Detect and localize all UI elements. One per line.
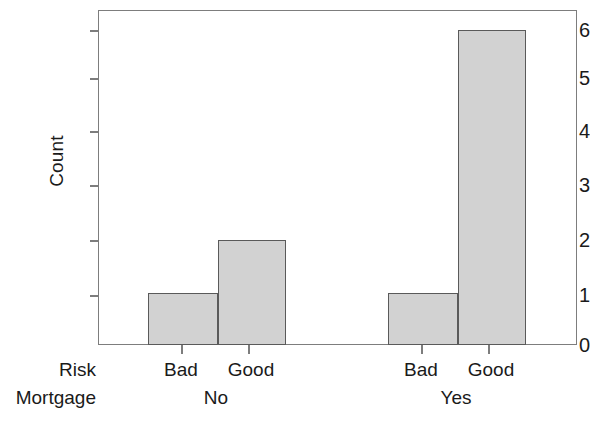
x-group-label-yes: Yes [441,388,472,408]
x-tick-mark-yes-bad [421,345,423,354]
y-tick-label-0: 0 [564,335,590,355]
y-tick-label-2: 2 [564,230,590,250]
x-group-label-no: No [204,388,228,408]
y-tick-mark-4 [90,131,98,133]
x-tick-mark-yes-good [488,345,490,354]
y-tick-mark-1 [90,295,98,297]
x-axis-level-title-mortgage: Mortgage [0,388,96,408]
bar-chart: Count 6 5 4 3 2 1 0 Risk Mortgage Bad Go… [0,0,590,422]
y-tick-label-4: 4 [564,121,590,141]
bar-yes-good[interactable] [458,30,526,345]
y-tick-label-1: 1 [564,285,590,305]
y-tick-label-6: 6 [564,20,590,40]
x-axis-level-title-risk: Risk [0,360,96,380]
bar-yes-bad[interactable] [388,293,458,346]
x-cat-label-yes-good: Good [468,360,514,380]
y-tick-label-3: 3 [564,175,590,195]
x-tick-mark-no-good [248,345,250,354]
x-cat-label-no-bad: Bad [164,360,198,380]
x-cat-label-no-good: Good [228,360,274,380]
y-tick-label-5: 5 [564,68,590,88]
y-tick-mark-2 [90,240,98,242]
y-tick-mark-5 [90,78,98,80]
bar-no-bad[interactable] [148,293,218,346]
y-tick-mark-6 [90,30,98,32]
y-tick-mark-3 [90,185,98,187]
y-axis-title: Count [46,116,68,206]
x-tick-mark-no-bad [181,345,183,354]
bar-no-good[interactable] [218,240,286,345]
x-cat-label-yes-bad: Bad [404,360,438,380]
